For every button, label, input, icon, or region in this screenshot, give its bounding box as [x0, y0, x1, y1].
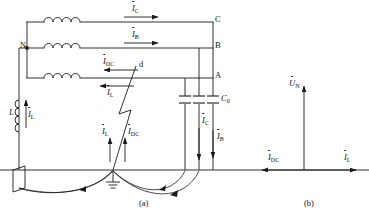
current-idc-line-label: IDC — [103, 57, 114, 66]
current-ic-cap-label: IC — [202, 116, 209, 125]
phasor-dot-icon — [291, 76, 293, 78]
line-capacitors — [179, 96, 219, 103]
figure-canvas: N C B A IC IB IDC IL d L IL C0 IL IDC IC… — [0, 0, 369, 218]
ground-symbol — [106, 170, 120, 188]
phasor-dot-icon — [108, 85, 110, 87]
phase-c-label: C — [215, 15, 221, 24]
phasor-dot-icon — [104, 54, 106, 56]
phasor-dot-icon — [129, 124, 131, 126]
current-idc-ground-label: IDC — [128, 127, 139, 136]
current-il-line-label: IL — [107, 88, 114, 97]
phasor-dot-icon — [103, 124, 105, 126]
capacitive-current-arrows — [199, 128, 213, 160]
current-ic-line-label: IC — [132, 4, 139, 13]
source-winding-coils — [44, 18, 80, 79]
circuit-drawing — [0, 0, 369, 218]
fault-arc-path — [113, 66, 136, 170]
phasor-dot-icon — [269, 150, 271, 152]
coil-current-label: IL — [28, 110, 35, 119]
neutral-node-label: N — [20, 41, 26, 50]
caption-a: (a) — [139, 199, 148, 208]
fault-point-label: d — [139, 60, 143, 69]
phasor-il-label: IL — [344, 153, 351, 162]
phasor-idc-label: IDC — [268, 153, 279, 162]
phasor-dot-icon — [29, 107, 31, 109]
phasor-dot-icon — [218, 129, 220, 131]
phasor-dot-icon — [345, 150, 347, 152]
current-ib-line-label: IB — [132, 30, 139, 39]
current-ib-cap-label: IB — [217, 132, 224, 141]
fault-node-current-arrows — [110, 138, 125, 162]
capacitance-label: C0 — [221, 94, 230, 103]
arc-suppression-coil — [15, 100, 19, 132]
phasor-dot-icon — [203, 113, 205, 115]
earth-loop-arrowheads — [79, 185, 178, 197]
caption-b: (b) — [304, 199, 314, 208]
phase-current-arrows — [100, 17, 158, 86]
suppression-coil-label: L — [9, 108, 14, 117]
phasor-un-label: UN — [289, 79, 299, 88]
phasor-dot-icon — [133, 27, 135, 29]
phasor-dot-icon — [133, 1, 135, 3]
phase-a-label: A — [215, 71, 221, 80]
current-il-ground-label: IL — [102, 127, 109, 136]
phase-b-label: B — [215, 41, 221, 50]
